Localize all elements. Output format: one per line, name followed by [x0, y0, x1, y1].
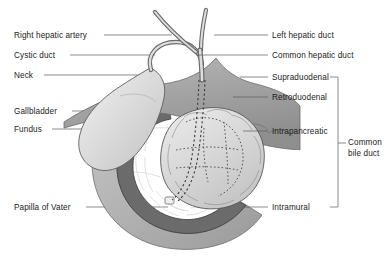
label-intramural: Intramural: [272, 203, 310, 214]
label-supraduodenal: Supraduodenal: [272, 73, 329, 84]
gallbladder: [79, 68, 165, 170]
biliary-ducts: [150, 10, 206, 80]
label-cystic-duct: Cystic duct: [14, 51, 55, 62]
label-common-bile-duct: Common bile duct: [348, 138, 382, 159]
label-common-bile-duct-line1: Common: [348, 138, 382, 147]
label-right-hepatic-artery: Right hepatic artery: [14, 31, 87, 42]
label-retroduodenal: Retroduodenal: [272, 93, 327, 104]
label-left-hepatic-duct: Left hepatic duct: [272, 31, 334, 42]
pancreas-head: [161, 108, 265, 209]
papilla-of-vater-marker: [165, 197, 174, 204]
label-common-hepatic-duct: Common hepatic duct: [272, 51, 354, 62]
label-common-bile-duct-line2: bile duct: [348, 149, 379, 158]
label-gallbladder: Gallbladder: [14, 107, 57, 118]
figure-canvas: Right hepatic artery Cystic duct Neck Ga…: [0, 0, 389, 275]
label-intrapancreatic: Intrapancreatic: [272, 127, 328, 138]
label-neck: Neck: [14, 71, 33, 82]
label-papilla-of-vater: Papilla of Vater: [14, 203, 71, 214]
label-fundus: Fundus: [14, 125, 42, 136]
